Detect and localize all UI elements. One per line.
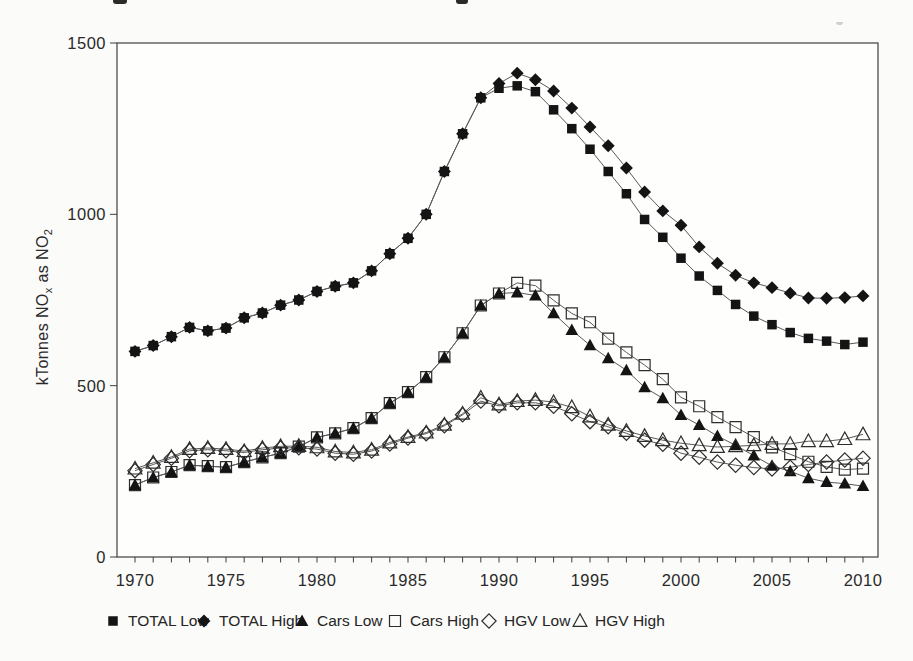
x-tick-label-1980: 1980 [292,571,342,590]
legend-item-cars-low: Cars Low [293,611,382,631]
y-tick-label-1500: 1500 [52,34,106,52]
legend-label: TOTAL High [219,612,303,630]
x-tick-label-1990: 1990 [474,571,524,590]
data-point-marker [385,249,395,258]
data-point-marker [203,326,213,336]
data-point-marker [658,233,668,243]
plot-frame [117,43,878,557]
data-point-marker [567,124,577,133]
data-point-marker [713,286,723,296]
data-point-marker [221,323,231,333]
scanned-chart-page: kTonnes NOx as NO2 050010001500 19701975… [0,0,913,661]
data-point-marker [767,320,777,330]
legend-label: HGV High [595,612,665,630]
legend-item-cars-high: Cars High [386,611,479,631]
data-point-marker [458,129,468,139]
legend-item-total-low: TOTAL Low [104,611,209,631]
diamond-open-marker-icon [480,612,498,630]
legend-item-hgv-high: HGV High [571,611,665,631]
data-point-marker [694,271,704,281]
x-tick-label-2005: 2005 [747,571,797,590]
square-open-marker-icon [386,612,404,630]
data-point-marker [804,334,814,344]
legend-marker-shape [482,614,496,628]
nox-emissions-line-chart [0,0,913,661]
legend-marker-shape [573,614,587,627]
data-point-marker [421,210,431,220]
data-point-marker [585,144,595,154]
legend-marker-shape [198,615,211,628]
x-tick-label-1970: 1970 [110,571,160,590]
data-point-marker [822,336,832,346]
data-point-marker [603,167,613,177]
data-point-marker [731,300,741,310]
data-point-marker [749,311,759,321]
y-tick-label-1000: 1000 [52,205,106,223]
data-point-marker [640,215,650,225]
data-point-marker [676,253,686,263]
x-tick-label-1985: 1985 [383,571,433,590]
data-point-marker [185,323,195,333]
data-point-marker [840,340,850,350]
data-point-marker [294,295,304,305]
legend-item-total-high: TOTAL High [195,611,303,631]
legend-marker-shape [390,616,401,627]
data-point-marker [367,266,377,276]
legend-label: Cars High [410,612,479,630]
data-point-marker [531,87,541,97]
legend-label: Cars Low [317,612,382,630]
data-point-marker [258,308,268,318]
data-point-marker [476,93,486,103]
data-point-marker [440,167,450,177]
y-axis-label: kTonnes NOx as NO2 [34,229,54,386]
data-point-marker [512,81,522,91]
y-axis-label-sub-x: x [42,287,54,293]
legend-item-hgv-low: HGV Low [480,611,570,631]
data-point-marker [148,341,158,351]
y-tick-label-0: 0 [52,548,106,566]
diamond-filled-marker-icon [195,612,213,630]
x-tick-label-1975: 1975 [201,571,251,590]
x-tick-label-2010: 2010 [838,571,888,590]
legend-marker-shape [296,614,309,626]
data-point-marker [330,282,340,292]
y-tick-label-500: 500 [52,377,106,395]
data-point-marker [167,332,177,342]
data-point-marker [494,83,504,93]
x-tick-label-2000: 2000 [656,571,706,590]
y-axis-label-sub-2: 2 [42,229,54,236]
data-point-marker [549,105,559,115]
square-filled-marker-icon [104,612,122,630]
data-point-marker [349,278,359,288]
legend-label: HGV Low [504,612,570,630]
data-point-marker [130,347,140,357]
data-point-marker [312,287,322,297]
legend-marker-shape [108,616,118,626]
data-point-marker [785,328,795,338]
y-axis-label-text: as NO [34,235,51,287]
data-point-marker [403,234,413,244]
triangle-filled-marker-icon [293,612,311,630]
data-point-marker [276,300,286,310]
data-point-marker [858,337,868,347]
y-axis-label-text: kTonnes NO [34,293,51,385]
x-tick-label-1995: 1995 [565,571,615,590]
triangle-open-marker-icon [571,612,589,630]
data-point-marker [622,189,632,199]
data-point-marker [239,313,249,323]
